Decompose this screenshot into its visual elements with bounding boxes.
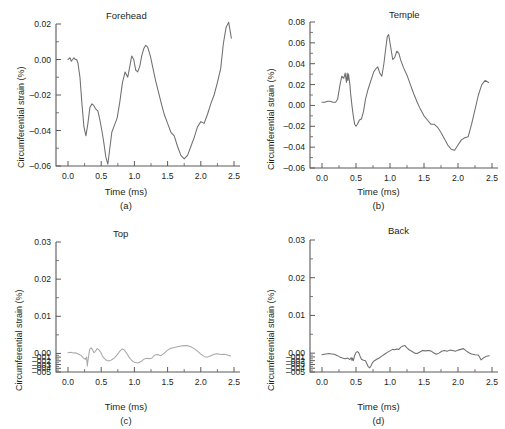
svg-text:2.0: 2.0 [452, 173, 464, 183]
panel-a-caption: (a) [0, 200, 252, 211]
svg-text:1.5: 1.5 [162, 377, 174, 387]
svg-text:2.5: 2.5 [228, 377, 240, 387]
svg-text:0.08: 0.08 [288, 17, 305, 27]
svg-text:0.04: 0.04 [288, 59, 305, 69]
panel-b-xlabel: Time (ms) [252, 186, 505, 197]
svg-text:0.0: 0.0 [316, 377, 328, 387]
svg-text:0.03: 0.03 [34, 237, 51, 247]
panel-a-plot: 0.00.51.01.52.02.5 0.020.00–0.02–0.04–0.… [0, 0, 252, 215]
svg-text:0.02: 0.02 [34, 274, 51, 284]
svg-text:1.0: 1.0 [384, 377, 396, 387]
svg-text:–0.04: –0.04 [29, 126, 51, 136]
panel-a: 0.00.51.01.52.02.5 0.020.00–0.02–0.04–0.… [0, 0, 252, 215]
svg-text:0.00: 0.00 [288, 100, 305, 110]
svg-text:0.02: 0.02 [288, 80, 305, 90]
svg-text:0.5: 0.5 [95, 377, 107, 387]
svg-text:0.03: 0.03 [288, 235, 305, 245]
panel-a-axes: 0.00.51.01.52.02.5 0.020.00–0.02–0.04–0.… [29, 19, 240, 181]
svg-text:2.0: 2.0 [195, 171, 207, 181]
panel-b-plot: 0.00.51.01.52.02.5 0.080.060.040.020.00–… [252, 0, 505, 215]
svg-text:–0.06: –0.06 [29, 161, 51, 171]
svg-text:0.01: 0.01 [288, 310, 305, 320]
panel-a-series [68, 22, 231, 164]
panel-b-axes: 0.00.51.01.52.02.5 0.080.060.040.020.00–… [283, 17, 498, 183]
panel-c-title: Top [113, 228, 128, 239]
svg-text:0.02: 0.02 [288, 273, 305, 283]
panel-d-caption: (d) [252, 415, 505, 426]
svg-text:–005: –005 [32, 367, 51, 377]
svg-text:0.5: 0.5 [350, 377, 362, 387]
svg-text:1.5: 1.5 [418, 173, 430, 183]
panel-d-axes: 0.00.51.01.52.02.5 0.030.020.010.00–001–… [286, 235, 498, 387]
svg-text:1.5: 1.5 [418, 377, 430, 387]
panel-d-title: Back [388, 225, 409, 236]
svg-text:–0.02: –0.02 [29, 90, 51, 100]
svg-text:–0.04: –0.04 [283, 142, 305, 152]
svg-text:1.5: 1.5 [162, 171, 174, 181]
panel-c-axes: 0.00.51.01.52.02.5 0.030.020.010.00–001–… [32, 237, 240, 387]
svg-text:1.0: 1.0 [128, 377, 140, 387]
svg-text:0.5: 0.5 [95, 171, 107, 181]
panel-d-ylabel: Circumferential strain (%) [266, 289, 276, 391]
panel-d-xlabel: Time (ms) [252, 401, 505, 412]
svg-text:2.5: 2.5 [486, 377, 498, 387]
svg-text:0.01: 0.01 [34, 311, 51, 321]
panel-b-caption: (b) [252, 200, 505, 211]
panel-c-ylabel: Circumferential strain (%) [14, 289, 24, 391]
panel-b: 0.00.51.01.52.02.5 0.080.060.040.020.00–… [252, 0, 505, 215]
svg-text:0.06: 0.06 [288, 38, 305, 48]
svg-text:0.02: 0.02 [34, 19, 51, 29]
panel-a-xlabel: Time (ms) [0, 186, 252, 197]
panel-d-plot: 0.00.51.01.52.02.5 0.030.020.010.00–001–… [252, 215, 505, 429]
panel-b-title: Temple [389, 9, 420, 20]
panel-d-series [322, 346, 489, 368]
svg-text:1.0: 1.0 [128, 171, 140, 181]
svg-text:1.0: 1.0 [384, 173, 396, 183]
svg-text:0.0: 0.0 [62, 171, 74, 181]
panel-c-plot: 0.00.51.01.52.02.5 0.030.020.010.00–001–… [0, 215, 252, 429]
svg-text:2.5: 2.5 [486, 173, 498, 183]
panel-c-caption: (c) [0, 415, 252, 426]
panel-a-title: Forehead [106, 10, 147, 21]
panel-b-ylabel: Circumferential strain (%) [266, 68, 276, 170]
svg-text:0.0: 0.0 [62, 377, 74, 387]
svg-text:0.0: 0.0 [316, 173, 328, 183]
panel-c: 0.00.51.01.52.02.5 0.030.020.010.00–001–… [0, 215, 252, 429]
figure-grid: 0.00.51.01.52.02.5 0.020.00–0.02–0.04–0.… [0, 0, 505, 429]
svg-text:0.5: 0.5 [350, 173, 362, 183]
panel-c-series [68, 346, 231, 366]
svg-text:2.0: 2.0 [195, 377, 207, 387]
svg-text:2.0: 2.0 [452, 377, 464, 387]
panel-d: 0.00.51.01.52.02.5 0.030.020.010.00–001–… [252, 215, 505, 429]
svg-text:2.5: 2.5 [228, 171, 240, 181]
panel-c-xlabel: Time (ms) [0, 401, 252, 412]
panel-a-ylabel: Circumferential strain (%) [16, 66, 26, 168]
svg-text:0.00: 0.00 [34, 55, 51, 65]
panel-b-series [322, 35, 489, 151]
svg-text:–0.06: –0.06 [283, 163, 305, 173]
svg-text:–0.02: –0.02 [283, 121, 305, 131]
svg-text:–005: –005 [286, 367, 305, 377]
